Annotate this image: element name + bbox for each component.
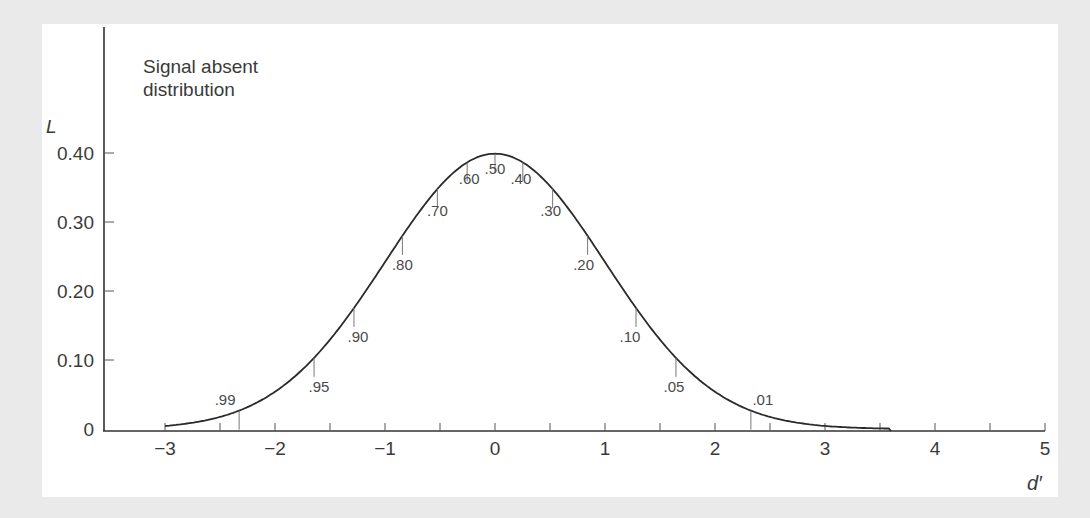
x-tick-label: −1 [374, 438, 396, 459]
y-tick-label: 0.40 [57, 143, 94, 164]
criterion-label: .70 [427, 202, 448, 219]
x-axis-label: d′ [1027, 472, 1043, 494]
distribution-title-line1: Signal absent [143, 56, 259, 77]
normal-distribution-chart: 00.100.200.300.40 −3−2−1012345 .99.95.90… [0, 0, 1090, 518]
criterion-label: .10 [620, 328, 641, 345]
y-tick-label: 0.30 [57, 212, 94, 233]
criterion-label: .90 [348, 328, 369, 345]
x-tick-label: 2 [710, 438, 721, 459]
criterion-label: .60 [459, 170, 480, 187]
criterion-label: .50 [485, 160, 506, 177]
y-tick-label: 0 [83, 419, 94, 440]
signal-absent-curve [165, 154, 891, 431]
x-tick-label: 4 [930, 438, 941, 459]
axes [103, 27, 1045, 431]
x-tick-label: 1 [600, 438, 611, 459]
criterion-label: .40 [510, 170, 531, 187]
distribution-title-line2: distribution [143, 79, 235, 100]
criterion-label: .95 [309, 378, 330, 395]
y-tick-label: 0.20 [57, 281, 94, 302]
criterion-label: .80 [392, 256, 413, 273]
criterion-label: .99 [215, 391, 236, 408]
x-tick-label: −2 [264, 438, 286, 459]
y-ticks: 00.100.200.300.40 [57, 143, 114, 440]
x-tick-label: 5 [1040, 438, 1051, 459]
x-tick-label: 3 [820, 438, 831, 459]
y-tick-label: 0.10 [57, 350, 94, 371]
criterion-label: .05 [664, 378, 685, 395]
criterion-annotations: .99.95.90.80.70.60.50.40.30.20.10.05.01 [215, 154, 774, 430]
criterion-label: .30 [540, 202, 561, 219]
x-tick-label: 0 [490, 438, 501, 459]
x-ticks: −3−2−1012345 [154, 423, 1050, 459]
x-tick-label: −3 [154, 438, 176, 459]
y-axis-label: L [46, 116, 57, 137]
criterion-label: .20 [573, 256, 594, 273]
criterion-label: .01 [752, 391, 773, 408]
